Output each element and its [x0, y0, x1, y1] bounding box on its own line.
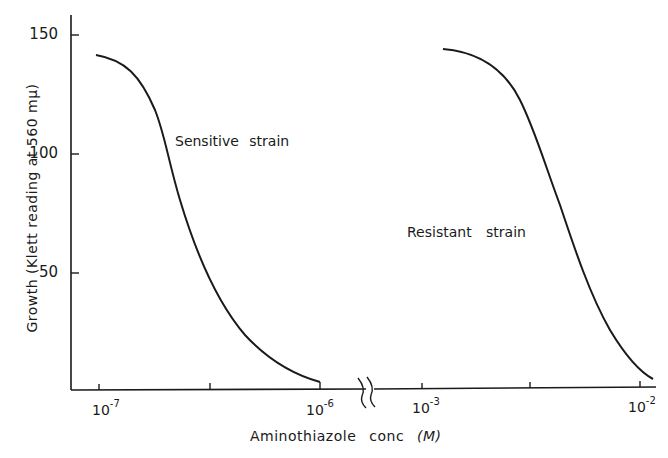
x-tick-label-1e-7: 10-7 — [92, 400, 120, 418]
x-tick-label-1e-6: 10-6 — [306, 400, 334, 418]
x-tick-exp: -7 — [110, 398, 120, 409]
sensitive-strain-curve — [96, 55, 320, 382]
x-axis-label-unit: (M) — [417, 428, 442, 444]
x-tick-label-1e-3: 10-3 — [412, 398, 440, 416]
x-tick-base: 10 — [306, 402, 324, 418]
x-tick-exp: -6 — [324, 398, 334, 409]
axis-break-icon-2 — [367, 377, 375, 407]
chart-canvas — [0, 0, 668, 458]
x-tick-base: 10 — [412, 400, 430, 416]
axis-break-icon — [358, 378, 366, 408]
x-tick-exp: -3 — [430, 396, 440, 407]
x-tick-label-1e-2: 10-2 — [628, 397, 656, 415]
x-tick-base: 10 — [628, 399, 646, 415]
x-axis-right — [374, 387, 656, 389]
y-axis-label: Growth (Klett reading at 560 mμ) — [24, 58, 40, 358]
x-axis-left — [71, 389, 366, 390]
resistant-strain-curve — [443, 49, 653, 379]
y-tick-label-150: 150 — [18, 25, 58, 43]
resistant-strain-label: Resistant strain — [407, 224, 526, 240]
x-axis-label: Aminothiazole conc (M) — [250, 428, 442, 444]
x-tick-exp: -2 — [646, 395, 656, 406]
x-tick-base: 10 — [92, 402, 110, 418]
x-axis-label-main: Aminothiazole conc — [250, 428, 404, 444]
sensitive-strain-label: Sensitive strain — [175, 133, 289, 149]
